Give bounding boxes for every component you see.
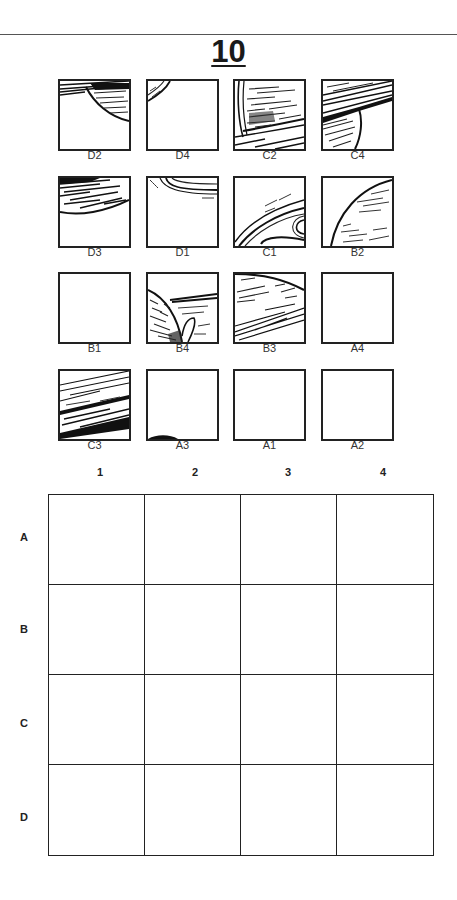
top-band-arc-drawing: [60, 81, 129, 149]
piece-tile[interactable]: B3: [233, 272, 306, 344]
piece-art: [233, 272, 306, 344]
piece-art: [233, 79, 306, 151]
piece-art: [233, 176, 306, 248]
answer-grid: [48, 494, 434, 856]
piece-label: C3: [58, 439, 131, 451]
piece-tile[interactable]: D4: [146, 79, 219, 151]
piece-label: B2: [321, 246, 394, 258]
piece-label: B3: [233, 342, 306, 354]
piece-art: [321, 176, 394, 248]
answer-cell-d3[interactable]: [241, 765, 337, 855]
piece-art: [321, 272, 394, 344]
ring-curves-drawing: [235, 178, 304, 246]
row-header-c: C: [14, 717, 34, 729]
piece-art: [58, 176, 131, 248]
row-header-b: B: [14, 623, 34, 635]
bottom-edge-mark-drawing: [148, 371, 217, 439]
planet-edge-arc-drawing: [323, 178, 392, 246]
piece-art: [58, 79, 131, 151]
column-header-2: 2: [185, 466, 205, 478]
piece-tile[interactable]: D3: [58, 176, 131, 248]
answer-cell-d2[interactable]: [145, 765, 241, 855]
piece-label: D4: [146, 149, 219, 161]
answer-cell-d4[interactable]: [337, 765, 433, 855]
answer-cell-a2[interactable]: [145, 495, 241, 585]
piece-tile[interactable]: C4: [321, 79, 394, 151]
row-header-d: D: [14, 811, 34, 823]
answer-cell-a3[interactable]: [241, 495, 337, 585]
corner-arc-small-drawing: [148, 81, 217, 149]
answer-cell-d1[interactable]: [49, 765, 145, 855]
piece-tile[interactable]: A2: [321, 369, 394, 441]
planet-ring-hook-drawing: [148, 274, 217, 342]
piece-tile[interactable]: B4: [146, 272, 219, 344]
puzzle-title: 10: [0, 36, 457, 68]
answer-cell-c4[interactable]: [337, 675, 433, 765]
piece-art: [58, 369, 131, 441]
answer-cell-b4[interactable]: [337, 585, 433, 675]
piece-art: [146, 176, 219, 248]
column-header-1: 1: [90, 466, 110, 478]
answer-cell-b2[interactable]: [145, 585, 241, 675]
piece-label: D3: [58, 246, 131, 258]
piece-tile[interactable]: D1: [146, 176, 219, 248]
piece-art: [321, 79, 394, 151]
row-header-a: A: [14, 531, 34, 543]
piece-art: [233, 369, 306, 441]
answer-cell-b3[interactable]: [241, 585, 337, 675]
top-shaded-arc-drawing: [60, 178, 129, 246]
answer-cell-b1[interactable]: [49, 585, 145, 675]
piece-tile[interactable]: C3: [58, 369, 131, 441]
piece-label: B1: [58, 342, 131, 354]
piece-label: D2: [58, 149, 131, 161]
dense-ring-bands-drawing: [60, 371, 129, 439]
piece-label: C1: [233, 246, 306, 258]
piece-art: [146, 79, 219, 151]
piece-label: A2: [321, 439, 394, 451]
piece-tile[interactable]: A1: [233, 369, 306, 441]
piece-label: A4: [321, 342, 394, 354]
piece-label: B4: [146, 342, 219, 354]
piece-tile[interactable]: D2: [58, 79, 131, 151]
answer-cell-c3[interactable]: [241, 675, 337, 765]
answer-cell-a1[interactable]: [49, 495, 145, 585]
ring-diagonal-drawing: [323, 81, 392, 149]
top-ring-arcs-drawing: [148, 178, 217, 246]
piece-label: C2: [233, 149, 306, 161]
planet-body-ring-drawing: [235, 81, 304, 149]
piece-tile[interactable]: B1: [58, 272, 131, 344]
piece-label: A3: [146, 439, 219, 451]
column-header-3: 3: [278, 466, 298, 478]
piece-art: [321, 369, 394, 441]
piece-art: [146, 272, 219, 344]
piece-label: A1: [233, 439, 306, 451]
puzzle-number: 10: [211, 34, 245, 69]
piece-art: [146, 369, 219, 441]
piece-tile[interactable]: A3: [146, 369, 219, 441]
piece-label: C4: [321, 149, 394, 161]
piece-tile[interactable]: C1: [233, 176, 306, 248]
answer-cell-c2[interactable]: [145, 675, 241, 765]
answer-cell-c1[interactable]: [49, 675, 145, 765]
piece-tile[interactable]: A4: [321, 272, 394, 344]
planet-body-streaks-drawing: [235, 274, 304, 342]
piece-tile[interactable]: B2: [321, 176, 394, 248]
piece-label: D1: [146, 246, 219, 258]
column-header-4: 4: [373, 466, 393, 478]
piece-art: [58, 272, 131, 344]
piece-tile[interactable]: C2: [233, 79, 306, 151]
answer-cell-a4[interactable]: [337, 495, 433, 585]
